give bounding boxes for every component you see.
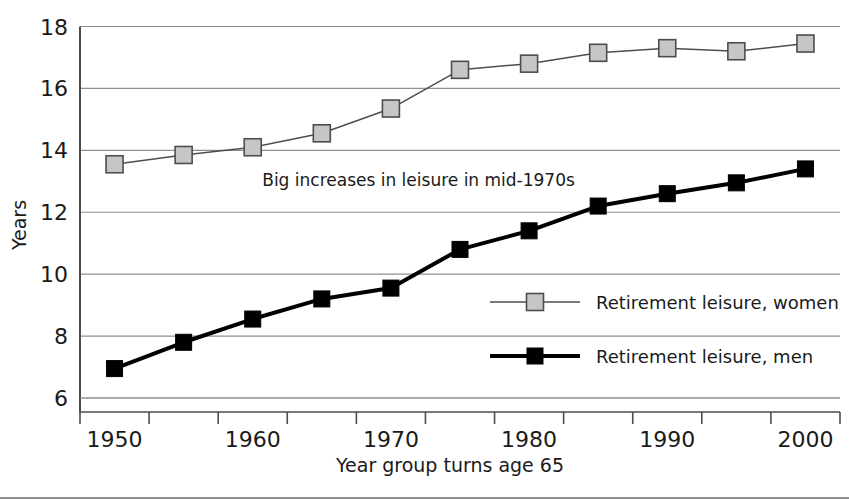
x-tick-label: 2000	[777, 427, 833, 452]
chart-legend: Retirement leisure, womenRetirement leis…	[490, 292, 839, 367]
x-axis-title: Year group turns age 65	[335, 454, 564, 476]
data-point-marker	[383, 280, 399, 296]
y-tick-label: 18	[40, 15, 68, 40]
data-point-marker	[175, 146, 192, 163]
data-point-marker	[244, 139, 261, 156]
data-point-marker	[797, 35, 814, 52]
y-tick-label: 14	[40, 138, 68, 163]
y-tick-label: 16	[40, 76, 68, 101]
data-point-marker	[106, 156, 123, 173]
data-point-marker	[313, 125, 330, 142]
legend-item-men: Retirement leisure, men	[490, 346, 813, 367]
data-point-marker	[452, 61, 469, 78]
y-tick-label: 10	[40, 262, 68, 287]
data-point-marker	[107, 361, 123, 377]
x-tick-label: 1950	[87, 427, 143, 452]
y-tick-label: 6	[54, 386, 68, 411]
y-axis-title: Years	[8, 200, 30, 251]
series-women	[106, 35, 814, 173]
x-tick-label: 1990	[639, 427, 695, 452]
series-men	[107, 161, 814, 377]
x-tick-label: 1960	[225, 427, 281, 452]
legend-item-women: Retirement leisure, women	[490, 292, 839, 313]
data-series-group	[106, 35, 814, 377]
x-tick-marks-group	[80, 412, 840, 424]
data-point-marker	[797, 161, 813, 177]
data-point-marker	[382, 100, 399, 117]
data-point-marker	[590, 198, 606, 214]
data-point-marker	[176, 334, 192, 350]
data-point-marker	[590, 44, 607, 61]
x-tick-labels-group: 195019601970198019902000	[87, 427, 834, 452]
data-point-marker	[728, 175, 744, 191]
data-point-marker	[314, 291, 330, 307]
annotations-group: Big increases in leisure in mid-1970s	[262, 170, 575, 190]
chart-canvas: 681012141618 195019601970198019902000 Bi…	[0, 0, 849, 499]
legend-marker-swatch	[527, 348, 543, 364]
data-point-marker	[245, 311, 261, 327]
legend-label: Retirement leisure, women	[596, 292, 839, 313]
data-point-marker	[521, 55, 538, 72]
y-tick-label: 12	[40, 200, 68, 225]
y-tick-label: 8	[54, 324, 68, 349]
data-point-marker	[659, 40, 676, 57]
series-line	[115, 169, 806, 369]
chart-figure: 681012141618 195019601970198019902000 Bi…	[0, 0, 849, 499]
data-point-marker	[728, 43, 745, 60]
chart-annotation: Big increases in leisure in mid-1970s	[262, 170, 575, 190]
x-tick-label: 1980	[501, 427, 557, 452]
x-tick-label: 1970	[363, 427, 419, 452]
legend-label: Retirement leisure, men	[596, 346, 813, 367]
data-point-marker	[452, 241, 468, 257]
gridlines-group	[80, 27, 840, 399]
y-tick-labels-group: 681012141618	[40, 15, 68, 412]
legend-marker-swatch	[527, 294, 544, 311]
data-point-marker	[521, 223, 537, 239]
data-point-marker	[659, 186, 675, 202]
